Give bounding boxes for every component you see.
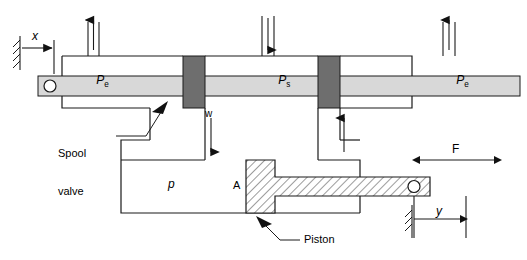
pe-left-port <box>88 20 99 56</box>
rod-end-pivot-hole <box>408 181 420 193</box>
f-arrowhead-left <box>412 156 420 164</box>
force-label: F <box>452 143 459 157</box>
f-arrowhead-right <box>494 156 502 164</box>
x-ground-hatch <box>13 40 20 68</box>
duct-left-to-cylinder <box>121 140 150 160</box>
pe-right-subscript: e <box>464 80 469 89</box>
piston-body <box>246 160 430 213</box>
pe-right-port <box>443 20 455 56</box>
w-dimension-label: w <box>205 108 212 120</box>
y-ground-hatch <box>405 210 412 231</box>
spool-land-right <box>318 56 340 108</box>
area-label: A <box>233 179 240 192</box>
pressure-label: p <box>168 178 175 192</box>
spool-land-left <box>183 56 205 108</box>
y-arrowhead <box>460 215 468 223</box>
spool-valve-label-line2: valve <box>58 185 86 198</box>
spool-valve-body <box>62 56 412 140</box>
ps-subscript: s <box>286 80 290 89</box>
piston-callout-label: Piston <box>304 233 335 246</box>
figure-canvas: x Pe Ps Pe w p A y F Spool valve Piston <box>0 0 527 260</box>
spool-pivot-hole <box>44 80 56 92</box>
force-arrow-group <box>412 156 502 164</box>
ps-label: Ps <box>265 60 290 103</box>
pe-right-label: Pe <box>443 60 469 103</box>
ps-port <box>262 16 274 56</box>
pe-left-subscript: e <box>104 80 109 89</box>
spool-callout-arrowhead <box>152 101 168 114</box>
piston-callout-arrowhead <box>256 216 272 228</box>
x-dimension-label: x <box>32 30 38 44</box>
spool-valve-label-line1: Spool <box>58 147 86 160</box>
y-dimension-label: y <box>436 205 442 219</box>
spool-valve-callout-label: Spool valve <box>58 122 86 223</box>
pe-left-label: Pe <box>83 60 109 103</box>
connecting-ducts <box>121 140 360 160</box>
